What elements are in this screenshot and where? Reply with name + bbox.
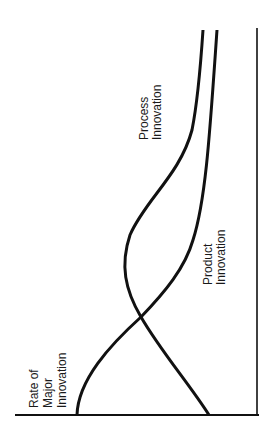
process-label-line-1: Process — [137, 97, 151, 140]
axis-label-line-1: Rate of — [27, 369, 41, 408]
axis-label-line-3: Innovation — [55, 353, 69, 408]
product-label-line-1: Product — [201, 243, 215, 285]
product-label-line-2: Innovation — [214, 230, 228, 285]
process-innovation-curve — [77, 30, 217, 415]
axis-label-line-2: Major — [41, 378, 55, 408]
innovation-rate-diagram: Rate of Major Innovation Process Innovat… — [0, 0, 276, 441]
process-label-line-2: Innovation — [150, 85, 164, 140]
